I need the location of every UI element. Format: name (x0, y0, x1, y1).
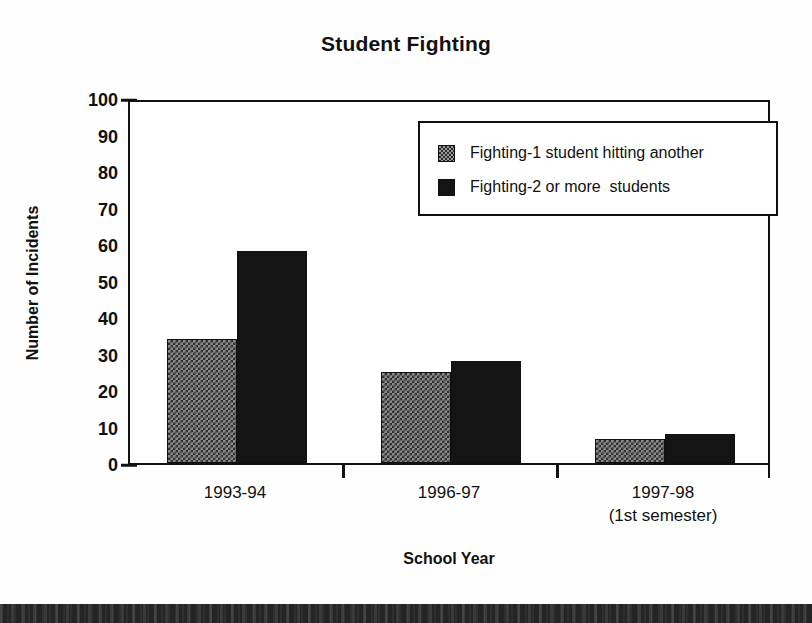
y-axis-tick-label: 60 (56, 237, 118, 255)
bar (381, 372, 451, 463)
y-axis-tick-label: 30 (56, 347, 118, 365)
legend-entry: Fighting-1 student hitting another (438, 136, 776, 170)
x-axis-category-main: 1996-97 (418, 483, 480, 502)
y-axis-tick-label: 100 (56, 91, 118, 109)
y-axis-tick-label: 80 (56, 164, 118, 182)
legend-entry-label: Fighting-1 student hitting another (470, 144, 704, 162)
bar (451, 361, 521, 463)
bar (167, 339, 237, 463)
solid-black-swatch-icon (438, 179, 455, 196)
legend-entry: Fighting-2 or more students (438, 170, 776, 204)
scan-artifact-band (0, 604, 812, 623)
x-axis-category-main: 1993-94 (204, 483, 266, 502)
x-axis-tick-mark (342, 465, 345, 478)
bar (665, 434, 735, 463)
y-axis-tick-label: 20 (56, 383, 118, 401)
legend-entry-label: Fighting-2 or more students (470, 178, 670, 196)
bar (595, 439, 665, 463)
hatched-gray-swatch-icon (438, 145, 455, 162)
y-axis-tick-label: 10 (56, 420, 118, 438)
x-axis-title: School Year (128, 550, 770, 568)
chart-page: Student Fighting Number of Incidents 010… (0, 0, 812, 623)
y-axis-title-container: Number of Incidents (18, 100, 48, 466)
x-axis-category-sublabel: (1st semester) (556, 505, 770, 528)
y-axis-tick-label: 90 (56, 128, 118, 146)
x-axis-tick-mark (768, 465, 771, 478)
chart-legend: Fighting-1 student hitting another Fight… (418, 121, 778, 216)
chart-title: Student Fighting (0, 32, 812, 56)
y-axis-title: Number of Incidents (24, 206, 42, 361)
x-axis-tick-mark (556, 465, 559, 478)
x-axis-category-label: 1997-98(1st semester) (556, 482, 770, 528)
y-axis-tick-label: 40 (56, 310, 118, 328)
x-axis-category-label: 1996-97 (342, 482, 556, 505)
y-axis-tick-label: 70 (56, 201, 118, 219)
x-axis-category-main: 1997-98 (632, 483, 694, 502)
y-axis-tick-label: 50 (56, 274, 118, 292)
bar (237, 251, 307, 463)
y-axis-tick-label: 0 (56, 456, 118, 474)
x-axis-category-label: 1993-94 (128, 482, 342, 505)
